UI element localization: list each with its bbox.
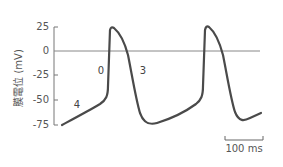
y-tick-label: -75: [33, 119, 49, 130]
phase-label-4: 4: [74, 99, 80, 110]
y-tick-label: 0: [43, 45, 49, 56]
y-tick-label: -25: [33, 69, 49, 80]
membrane-potential-trace: [62, 26, 261, 125]
y-tick-label: -50: [33, 94, 49, 105]
time-scale-bar: [225, 136, 263, 140]
phase-label-0: 0: [98, 65, 104, 76]
action-potential-chart: 25 0 -25 -50 -75 膜電位 (mV) 4 0 3 100 ms: [0, 0, 283, 167]
scale-bar-label: 100 ms: [225, 143, 262, 154]
phase-label-3: 3: [140, 65, 146, 76]
y-axis-label: 膜電位 (mV): [12, 49, 24, 107]
y-tick-label: 25: [36, 21, 49, 32]
